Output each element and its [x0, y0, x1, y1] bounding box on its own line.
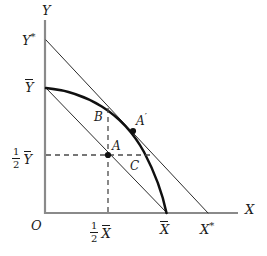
y-axis-label: Y: [42, 4, 51, 17]
x-star-letter: X: [200, 222, 209, 237]
origin-label: O: [31, 219, 42, 232]
half-fraction-y: 12: [12, 147, 20, 170]
half-x-numerator: 1: [90, 221, 98, 232]
point-label-A: A: [112, 140, 121, 152]
point-A-prime-mark: ′: [145, 111, 147, 122]
x-bar-letter: X: [160, 222, 169, 237]
half-y-bar-letter: Y: [23, 152, 32, 167]
x-axis-label-text: X: [245, 202, 254, 217]
point-A-marker: [105, 152, 111, 158]
y-tick-y-bar: Y: [25, 79, 34, 94]
y-axis-label-text: Y: [42, 3, 51, 18]
overbar-rule: [102, 225, 110, 226]
x-tick-x-star: X*: [200, 221, 214, 236]
point-label-A-prime: A′: [136, 112, 147, 127]
x-tick-x-bar: X: [160, 221, 169, 236]
overbar-rule: [25, 79, 32, 80]
origin-label-text: O: [31, 218, 42, 233]
half-y-numerator: 1: [12, 147, 20, 158]
point-A-text: A: [112, 139, 121, 153]
half-y-denominator: 2: [12, 158, 20, 170]
x-star-superscript: *: [209, 220, 214, 231]
point-A-prime-text: A: [136, 114, 145, 128]
point-label-C: C: [130, 160, 139, 172]
y-bar-overbar-wrap: Y: [25, 79, 34, 94]
overbar-rule: [160, 221, 168, 222]
half-y-bar-overbar-wrap: Y: [23, 151, 32, 166]
x-bar-overbar-wrap: X: [160, 221, 169, 236]
point-B-text: B: [94, 110, 103, 124]
x-tick-half-x-bar: 12X: [90, 221, 111, 244]
figure-root: Y X O Y* Y 12Y 12X X X* B A′ A C: [0, 0, 267, 256]
point-label-B: B: [94, 111, 103, 123]
y-tick-y-star: Y*: [22, 32, 36, 47]
point-C-text: C: [130, 159, 139, 173]
half-x-bar-overbar-wrap: X: [101, 225, 110, 240]
x-axis-label: X: [245, 203, 254, 216]
y-bar-letter: Y: [25, 80, 34, 95]
overbar-rule: [24, 151, 31, 152]
y-star-superscript: *: [31, 31, 36, 42]
half-x-denominator: 2: [90, 232, 98, 244]
y-star-letter: Y: [22, 33, 31, 48]
point-A-prime-marker: [130, 128, 136, 134]
y-tick-half-y-bar: 12Y: [12, 147, 32, 170]
half-fraction-x: 12: [90, 221, 98, 244]
half-x-bar-letter: X: [101, 226, 110, 241]
